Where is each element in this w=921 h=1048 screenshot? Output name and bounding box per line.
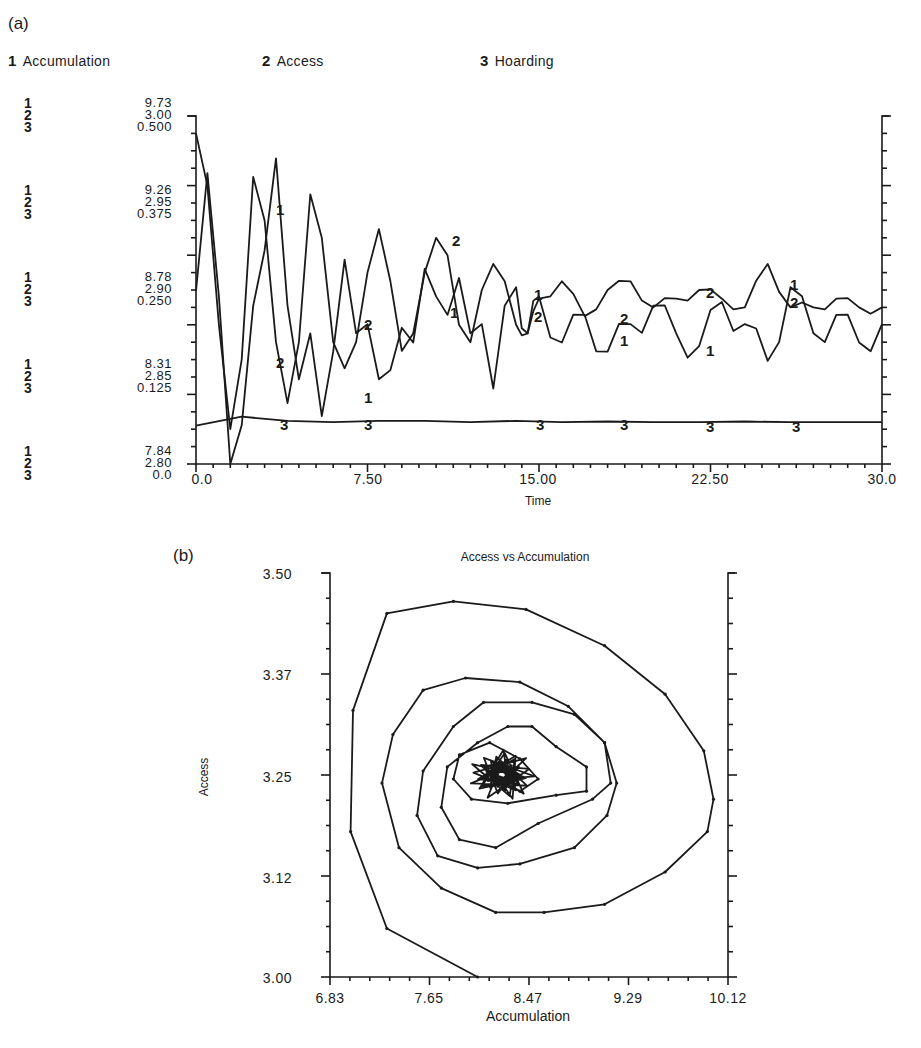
chart-graphics: 12312321312321321312 — [0, 0, 921, 1048]
series-line-2 — [196, 133, 882, 429]
series-marker-3: 3 — [364, 416, 372, 433]
series-marker-2: 2 — [276, 354, 284, 371]
series-marker-2: 2 — [452, 232, 460, 249]
series-marker-1: 1 — [620, 332, 628, 349]
series-marker-1: 1 — [450, 304, 458, 321]
series-marker-1: 1 — [364, 389, 372, 406]
series-marker-3: 3 — [706, 418, 714, 435]
series-marker-2: 2 — [790, 294, 798, 311]
series-marker-2: 2 — [706, 284, 714, 301]
bottom-chart-points — [349, 600, 715, 979]
series-marker-1: 1 — [706, 342, 714, 359]
series-marker-3: 3 — [792, 418, 800, 435]
series-marker-1: 1 — [790, 276, 798, 293]
series-marker-2: 2 — [534, 308, 542, 325]
series-marker-3: 3 — [620, 416, 628, 433]
series-marker-2: 2 — [620, 310, 628, 327]
bottom-chart-spiral — [351, 601, 714, 977]
top-chart-series-markers: 12312321312321321312 — [276, 201, 800, 435]
series-marker-1: 1 — [276, 201, 284, 218]
spiral-center-tangle — [471, 750, 535, 799]
series-marker-3: 3 — [536, 416, 544, 433]
series-marker-2: 2 — [364, 316, 372, 333]
series-marker-3: 3 — [280, 416, 288, 433]
series-marker-1: 1 — [534, 286, 542, 303]
